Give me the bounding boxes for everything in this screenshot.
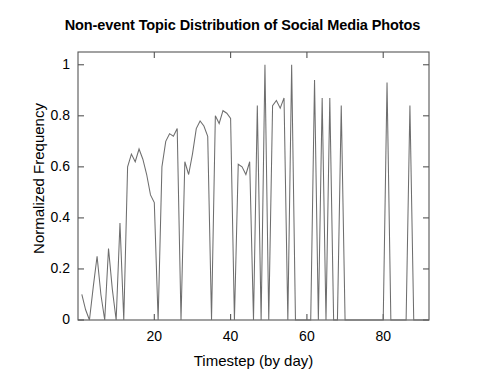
y-tick-label: 1 <box>30 56 70 72</box>
y-tick-label: 0.2 <box>30 260 70 276</box>
x-tick-label: 40 <box>211 328 251 344</box>
plot-background <box>78 52 429 320</box>
x-tick-label: 20 <box>134 328 174 344</box>
y-tick-label: 0.6 <box>30 158 70 174</box>
x-tick-label: 60 <box>287 328 327 344</box>
y-tick-label: 0.8 <box>30 107 70 123</box>
x-tick-label: 80 <box>363 328 403 344</box>
y-tick-label: 0 <box>30 311 70 327</box>
figure-canvas: Non-event Topic Distribution of Social M… <box>0 0 485 385</box>
y-tick-label: 0.4 <box>30 209 70 225</box>
